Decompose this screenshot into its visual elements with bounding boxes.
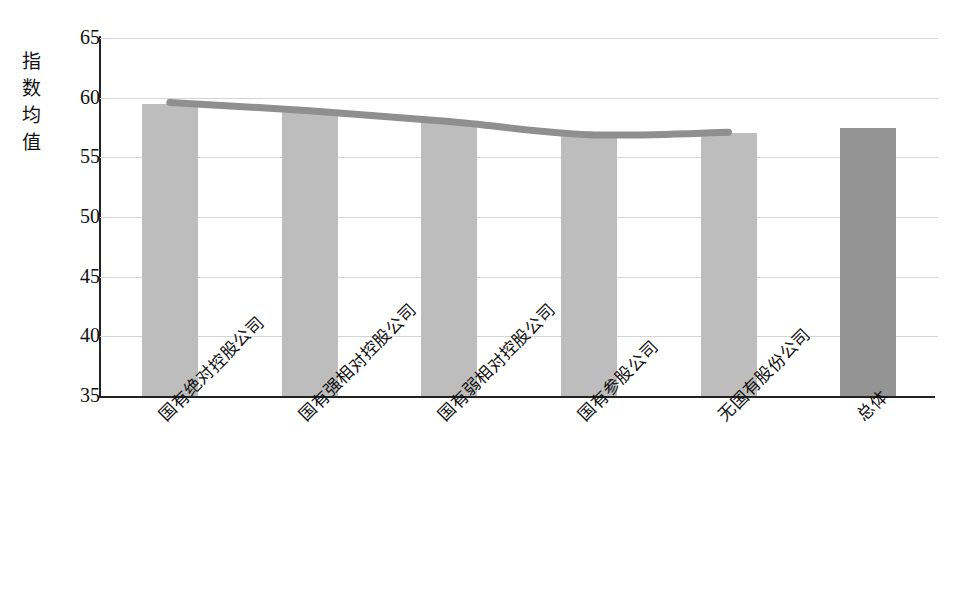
y-axis-title-char-1: 指 bbox=[18, 48, 44, 75]
bar bbox=[840, 128, 896, 397]
gridline-60 bbox=[100, 98, 938, 99]
y-tick-label: 65 bbox=[54, 26, 100, 49]
gridline-50 bbox=[100, 217, 938, 218]
y-tick-label: 45 bbox=[54, 265, 100, 288]
y-tick-label: 40 bbox=[54, 324, 100, 347]
x-axis-tick-labels: 国有绝对控股公司国有强相对控股公司国有弱相对控股公司国有参股公司无国有股份公司总… bbox=[0, 396, 962, 590]
y-axis-title-char-3: 均 bbox=[18, 102, 44, 129]
bar bbox=[421, 122, 477, 396]
gridline-55 bbox=[100, 157, 938, 158]
gridline-45 bbox=[100, 277, 938, 278]
y-axis-title: 指 数 均 值 bbox=[18, 48, 44, 156]
chart-figure: 指 数 均 值 65 60 55 50 45 40 35 国有绝对控股公司国有强… bbox=[0, 0, 962, 590]
bar bbox=[142, 104, 198, 396]
y-tick-label: 50 bbox=[54, 205, 100, 228]
gridline-65 bbox=[100, 38, 938, 39]
y-axis-title-char-2: 数 bbox=[18, 75, 44, 102]
y-tick-label: 55 bbox=[54, 145, 100, 168]
bar bbox=[701, 133, 757, 396]
bar bbox=[282, 111, 338, 396]
y-tick-label: 60 bbox=[54, 86, 100, 109]
bar bbox=[561, 136, 617, 396]
y-axis-title-char-4: 值 bbox=[18, 129, 44, 156]
